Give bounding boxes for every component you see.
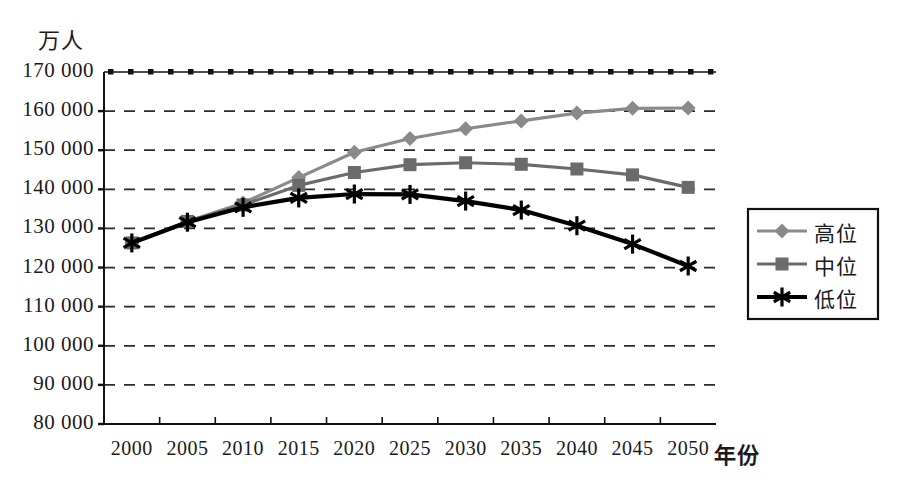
y-tick-label: 110 000: [10, 293, 94, 318]
diamond-marker-icon: [403, 131, 418, 146]
square-marker-icon: [682, 181, 695, 194]
square-marker-icon: [459, 156, 472, 169]
series-低位: [124, 185, 697, 276]
square-marker-icon: [515, 158, 528, 171]
square-marker-icon: [626, 168, 639, 181]
y-tick-label: 130 000: [10, 214, 94, 239]
y-tick-label: 90 000: [10, 371, 94, 396]
diamond-marker-icon: [514, 113, 529, 128]
diamond-marker-icon: [625, 101, 640, 116]
y-tick-label: 150 000: [10, 136, 94, 161]
population-projection-chart: 万人 170 000160 000150 000140 000130 00012…: [0, 0, 910, 497]
x-axis-title: 年份: [714, 437, 760, 469]
y-tick-label: 100 000: [10, 332, 94, 357]
chart-canvas: [0, 0, 910, 497]
square-marker-icon: [348, 166, 361, 179]
diamond-marker-icon: [458, 121, 473, 136]
x-tick-label: 2050: [653, 437, 723, 460]
square-marker-icon: [776, 258, 789, 271]
y-tick-label: 160 000: [10, 97, 94, 122]
gridlines: [104, 69, 716, 424]
legend-box: [748, 209, 878, 319]
legend-entry-高位[interactable]: 高位: [814, 217, 858, 247]
y-tick-label: 170 000: [10, 58, 94, 83]
diamond-marker-icon: [569, 106, 584, 121]
y-axis-unit-label: 万人: [38, 22, 84, 54]
y-tick-label: 80 000: [10, 410, 94, 435]
legend-entry-中位[interactable]: 中位: [814, 250, 858, 280]
y-tick-label: 120 000: [10, 254, 94, 279]
square-marker-icon: [570, 162, 583, 175]
y-tick-label: 140 000: [10, 175, 94, 200]
asterisk-marker-icon: [680, 256, 696, 275]
diamond-marker-icon: [347, 145, 362, 160]
square-marker-icon: [404, 158, 417, 171]
axis-lines: [98, 72, 716, 424]
legend-entry-低位[interactable]: 低位: [814, 283, 858, 313]
diamond-marker-icon: [681, 100, 696, 115]
